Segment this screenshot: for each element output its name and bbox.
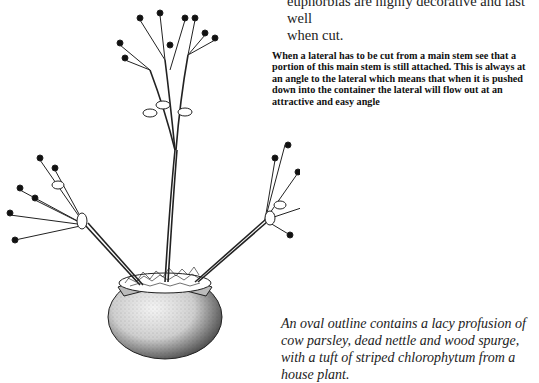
body-line-1: euphorbias are highly decorative and las… xyxy=(287,0,537,27)
instruction-caption: When a lateral has to be cut from a main… xyxy=(272,50,538,107)
left-cluster xyxy=(7,155,87,243)
flower-heads xyxy=(7,10,300,243)
body-line-2: when cut. xyxy=(287,27,537,44)
euphorbia-arrangement-illustration xyxy=(0,0,300,366)
top-cluster xyxy=(117,10,218,117)
stems xyxy=(85,55,267,285)
pot xyxy=(108,273,222,359)
body-paragraph: euphorbias are highly decorative and las… xyxy=(287,0,537,44)
right-cluster xyxy=(265,142,300,238)
figure-caption: An oval outline contains a lacy profusio… xyxy=(281,315,539,383)
